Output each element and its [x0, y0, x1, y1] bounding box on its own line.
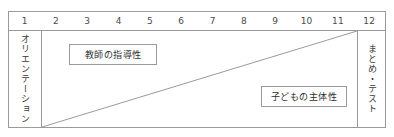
timeline-tick-5: 5	[134, 12, 165, 31]
phase-label-orientation: オリエンテーション	[9, 31, 41, 127]
label-box-children-initiative: 子どもの主体性	[261, 86, 347, 107]
timeline-tick-2: 2	[40, 12, 71, 31]
diagram-body: オリエンテーション まとめ・テスト 教師の指導性 子どもの主体性	[9, 31, 385, 127]
label-box-teacher-guidance: 教師の指導性	[69, 44, 157, 65]
lesson-progression-diagram: 1 2 3 4 5 6 7 8 9 10 11 12 オリエンテーション まとめ…	[0, 0, 394, 137]
timeline-tick-12: 12	[354, 12, 385, 31]
timeline-tick-3: 3	[72, 12, 103, 31]
diagram-center-region: 教師の指導性 子どもの主体性	[42, 31, 357, 127]
timeline-tick-10: 10	[291, 12, 322, 31]
label-box-children-initiative-text: 子どもの主体性	[271, 90, 338, 103]
timeline-tick-4: 4	[103, 12, 134, 31]
timeline-tick-7: 7	[197, 12, 228, 31]
timeline-tick-11: 11	[322, 12, 353, 31]
timeline-tick-6: 6	[166, 12, 197, 31]
timeline-tick-8: 8	[228, 12, 259, 31]
label-box-teacher-guidance-text: 教師の指導性	[85, 48, 142, 61]
timeline-ruler: 1 2 3 4 5 6 7 8 9 10 11 12	[9, 12, 385, 31]
timeline-tick-1: 1	[9, 12, 40, 31]
phase-label-summary-test: まとめ・テスト	[358, 31, 385, 127]
timeline-tick-9: 9	[260, 12, 291, 31]
